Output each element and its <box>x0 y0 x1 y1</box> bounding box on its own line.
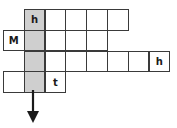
grid-cell[interactable] <box>107 51 129 73</box>
grid-cell[interactable] <box>86 51 108 73</box>
grid-cell[interactable] <box>65 9 87 31</box>
grid-cell[interactable] <box>45 51 67 73</box>
grid-cell[interactable] <box>3 71 25 93</box>
grid-cell[interactable] <box>86 9 108 31</box>
grid-cell[interactable] <box>45 30 67 52</box>
grid-cell[interactable] <box>65 30 87 52</box>
grid-cell[interactable] <box>24 51 46 73</box>
grid-cell[interactable] <box>45 9 67 31</box>
grid-cell-h[interactable]: h <box>149 51 171 73</box>
grid-cell-t[interactable]: t <box>45 71 67 93</box>
grid-cell[interactable] <box>107 9 129 31</box>
grid-cell-M[interactable]: M <box>3 30 25 52</box>
grid-cell[interactable] <box>65 51 87 73</box>
grid-cell-h[interactable]: h <box>24 9 46 31</box>
grid-cell[interactable] <box>24 30 46 52</box>
grid-cell[interactable] <box>128 51 150 73</box>
arrow-down-icon <box>27 90 39 124</box>
grid-cell[interactable] <box>86 30 108 52</box>
